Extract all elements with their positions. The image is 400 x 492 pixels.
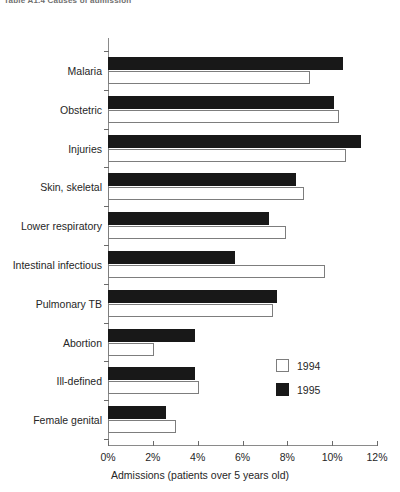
y-axis-tick bbox=[104, 129, 109, 130]
bar-1995 bbox=[108, 251, 235, 264]
bar-1995 bbox=[108, 135, 361, 148]
legend-label: 1994 bbox=[297, 359, 320, 373]
bar-1994 bbox=[108, 110, 339, 123]
bar-1994 bbox=[108, 226, 286, 239]
category-label: Pulmonary TB bbox=[0, 299, 102, 310]
category-label: Obstetric bbox=[0, 105, 102, 116]
category-label: Intestinal infectious bbox=[0, 260, 102, 271]
x-axis-tick-label: 2% bbox=[128, 451, 178, 463]
bar-1995 bbox=[108, 329, 195, 342]
bar-1994 bbox=[108, 149, 346, 162]
plot-area: MalariaObstetricInjuriesSkin, skeletalLo… bbox=[0, 0, 400, 492]
bar-1995 bbox=[108, 96, 334, 109]
y-axis-tick bbox=[104, 245, 109, 246]
x-axis-tick bbox=[198, 441, 199, 446]
legend-swatch-1995 bbox=[276, 383, 289, 396]
x-axis-tick-label: 4% bbox=[173, 451, 223, 463]
y-axis-tick bbox=[104, 90, 109, 91]
category-label: Female genital bbox=[0, 415, 102, 426]
x-axis-title: Admissions (patients over 5 years old) bbox=[0, 469, 400, 481]
y-axis-tick bbox=[104, 323, 109, 324]
bar-1994 bbox=[108, 304, 273, 317]
bar-1995 bbox=[108, 367, 195, 380]
category-label: Abortion bbox=[0, 338, 102, 349]
x-axis-tick bbox=[287, 441, 288, 446]
category-label: Skin, skeletal bbox=[0, 182, 102, 193]
bar-1994 bbox=[108, 343, 154, 356]
x-axis-tick bbox=[243, 441, 244, 446]
x-axis-tick-label: 10% bbox=[307, 451, 357, 463]
y-axis-tick bbox=[104, 284, 109, 285]
x-axis-tick bbox=[377, 441, 378, 446]
bar-chart-figure: Table A1.4 Causes of admission MalariaOb… bbox=[0, 0, 400, 492]
category-label: Injuries bbox=[0, 144, 102, 155]
y-axis-tick bbox=[104, 167, 109, 168]
bar-1995 bbox=[108, 290, 277, 303]
x-axis-tick-label: 6% bbox=[218, 451, 268, 463]
legend-label: 1995 bbox=[297, 383, 320, 397]
bar-1995 bbox=[108, 406, 166, 419]
y-axis-tick bbox=[104, 206, 109, 207]
bar-1995 bbox=[108, 57, 343, 70]
category-label: Lower respiratory bbox=[0, 221, 102, 232]
x-axis-tick-label: 12% bbox=[352, 451, 400, 463]
x-axis-tick-label: 8% bbox=[262, 451, 312, 463]
y-axis-tick bbox=[104, 361, 109, 362]
bar-1994 bbox=[108, 71, 310, 84]
x-axis-tick bbox=[153, 441, 154, 446]
bar-1995 bbox=[108, 212, 269, 225]
x-axis-tick bbox=[108, 441, 109, 446]
bar-1994 bbox=[108, 265, 325, 278]
x-axis-tick bbox=[332, 441, 333, 446]
legend-swatch-1994 bbox=[276, 359, 289, 372]
category-label: Ill-defined bbox=[0, 376, 102, 387]
bar-1994 bbox=[108, 187, 304, 200]
bar-1995 bbox=[108, 173, 296, 186]
bar-1994 bbox=[108, 420, 176, 433]
category-label: Malaria bbox=[0, 66, 102, 77]
y-axis-tick bbox=[104, 439, 109, 440]
y-axis-tick bbox=[104, 51, 109, 52]
y-axis-tick bbox=[104, 400, 109, 401]
x-axis-tick-label: 0% bbox=[83, 451, 133, 463]
bar-1994 bbox=[108, 381, 199, 394]
